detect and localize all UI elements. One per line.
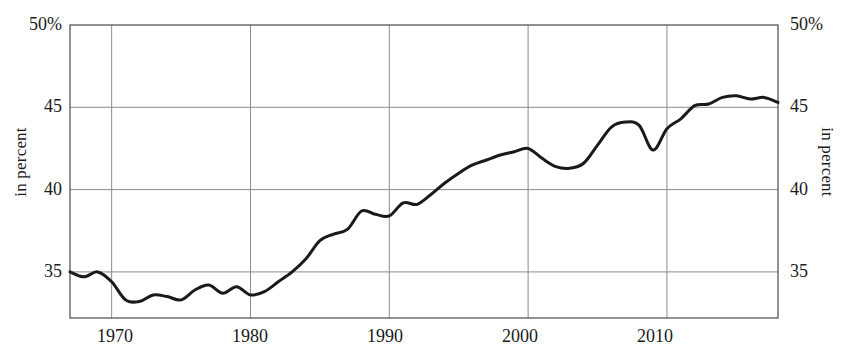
gridlines bbox=[70, 25, 778, 318]
plot-frame bbox=[70, 25, 778, 318]
plot-area bbox=[0, 0, 848, 363]
line-chart: in percent in percent 50% 45 40 35 50% 4… bbox=[0, 0, 848, 363]
series-line bbox=[70, 96, 778, 303]
